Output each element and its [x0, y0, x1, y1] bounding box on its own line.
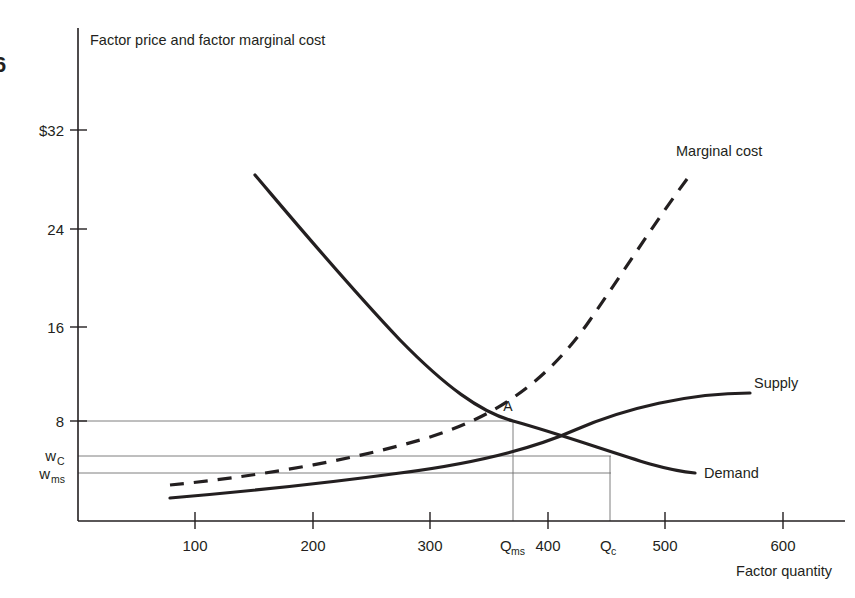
marginal-cost-curve: [170, 175, 690, 485]
supply-curve: [170, 393, 750, 498]
y-tick-label-wms: w ms: [38, 465, 65, 485]
y-axis-ticks: $32 24 16 8 w C w ms: [38, 122, 87, 485]
svg-text:Q: Q: [500, 537, 512, 554]
svg-text:c: c: [611, 545, 616, 557]
svg-text:w: w: [38, 465, 50, 482]
svg-text:Q: Q: [600, 537, 612, 554]
demand-curve: [255, 175, 695, 473]
svg-text:w: w: [44, 447, 56, 464]
axes: [78, 28, 845, 521]
x-tick-label-500: 500: [652, 537, 677, 554]
supply-label: Supply: [754, 375, 799, 391]
x-axis-title: Factor quantity: [736, 563, 833, 579]
marginal-cost-label: Marginal cost: [676, 143, 762, 159]
x-tick-label-200: 200: [300, 537, 325, 554]
annotations: A: [503, 398, 513, 414]
curves: [170, 175, 750, 498]
demand-label: Demand: [704, 465, 759, 481]
point-a-label: A: [503, 398, 513, 414]
figure-root: 6 $32 24 16 8 w C: [0, 0, 855, 598]
y-tick-label-16: 16: [47, 319, 64, 336]
y-tick-label-24: 24: [47, 221, 64, 238]
x-tick-label-qms: Q ms: [500, 537, 525, 557]
x-tick-label-300: 300: [417, 537, 442, 554]
svg-text:C: C: [57, 455, 65, 467]
x-tick-label-600: 600: [770, 537, 795, 554]
y-tick-label-wc: w C: [44, 447, 65, 467]
reference-guides: [78, 421, 611, 521]
curve-labels: Marginal cost Supply Demand: [676, 143, 799, 481]
x-tick-label-qc: Q c: [600, 537, 616, 557]
x-axis-ticks: 100 200 300 400 500 600 Q ms Q c: [182, 512, 795, 557]
economics-chart: $32 24 16 8 w C w ms 100 200 300 400: [0, 0, 855, 598]
svg-text:ms: ms: [51, 473, 65, 485]
svg-text:ms: ms: [511, 545, 525, 557]
y-tick-label-8: 8: [56, 413, 64, 430]
y-axis-title: Factor price and factor marginal cost: [90, 32, 325, 48]
x-tick-label-100: 100: [182, 537, 207, 554]
x-tick-label-400: 400: [535, 537, 560, 554]
y-tick-label-32: $32: [39, 122, 64, 139]
